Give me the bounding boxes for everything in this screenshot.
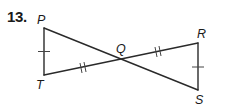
geometry-figure: P T Q R S [0, 0, 227, 111]
label-q: Q [116, 42, 126, 56]
label-s: S [195, 93, 204, 107]
label-r: R [197, 27, 206, 41]
label-p: P [37, 13, 46, 27]
label-t: T [36, 78, 45, 92]
